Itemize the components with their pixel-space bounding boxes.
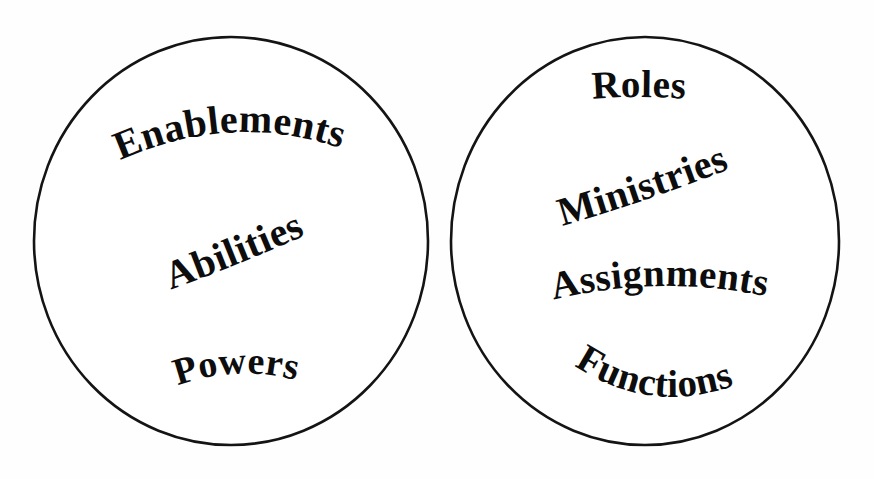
left-circle-group: Enablements Abilities Powers	[34, 37, 428, 445]
diagram-svg: Enablements Abilities Powers Roles Minis…	[0, 0, 874, 479]
label-roles: Roles	[590, 62, 688, 107]
diagram-canvas: Enablements Abilities Powers Roles Minis…	[0, 0, 874, 479]
right-circle-group: Roles Ministries Assignments Functions	[451, 37, 839, 445]
